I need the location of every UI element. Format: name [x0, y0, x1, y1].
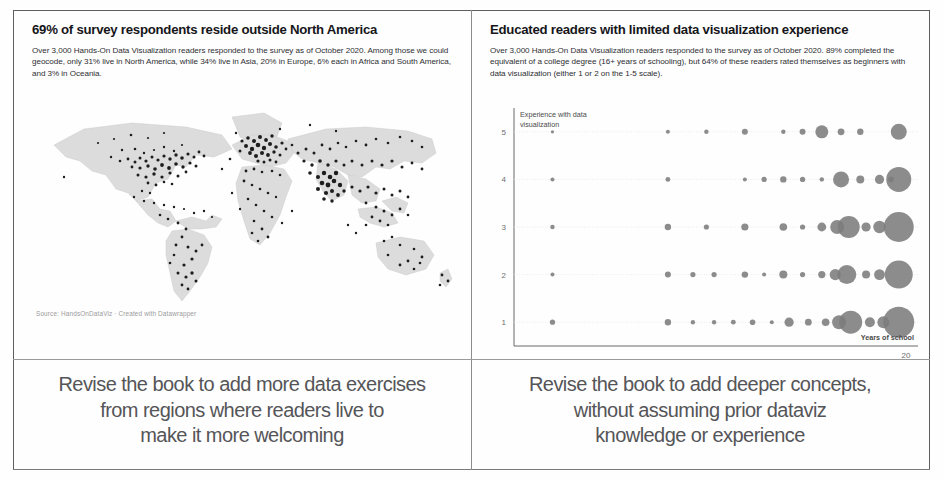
bubble-point [781, 130, 785, 134]
bubble-point [856, 175, 864, 183]
y-tick-label-4: 4 [502, 175, 507, 184]
bubble-point [741, 223, 748, 230]
bubble-point [838, 128, 845, 135]
bubble-point [805, 319, 812, 326]
bubble-point [815, 125, 828, 138]
bubble-point [550, 273, 554, 277]
bubble-point [750, 319, 756, 325]
y-axis-title-line1: Experience with data [520, 110, 587, 119]
bubble-point [779, 271, 787, 279]
left-chart-subtitle: Over 3,000 Hands-On Data Visualization r… [32, 45, 453, 79]
bubble-point [875, 175, 884, 184]
bubble-point [865, 317, 875, 327]
slide-root: 69% of survey respondents reside outside… [0, 0, 943, 480]
bubble-point [884, 212, 914, 242]
bubble-chart-svg: 12345 Experience with data visualization… [486, 102, 926, 359]
bubble-point [665, 319, 671, 325]
bubble-chart: 12345 Experience with data visualization… [486, 102, 926, 359]
bubble-point [704, 130, 708, 134]
bubble-point [817, 223, 826, 232]
right-caption-line-3: knowledge or experience [474, 423, 926, 449]
right-caption-line-1: Revise the book to add deeper concepts, [474, 372, 926, 398]
panel-divider-horizontal [13, 359, 930, 360]
y-tick-label-1: 1 [502, 318, 507, 327]
right-chart-subtitle: Over 3,000 Hands-On Data Visualization r… [490, 45, 911, 79]
bubble-point [862, 271, 870, 279]
left-chart-title: 69% of survey respondents reside outside… [32, 22, 453, 38]
right-chart-title: Educated readers with limited data visua… [490, 22, 911, 38]
left-panel: 69% of survey respondents reside outside… [14, 10, 471, 359]
bubble-point [833, 171, 849, 187]
bubble-point [551, 130, 554, 133]
bubble-point [770, 320, 774, 324]
left-caption-line-1: Revise the book to add more data exercis… [16, 372, 468, 398]
left-caption-line-2: from regions where readers live to [16, 398, 468, 424]
bubble-point [874, 269, 885, 280]
y-tick-label-3: 3 [502, 223, 507, 232]
bubble-point [837, 265, 856, 284]
bubble-point [691, 320, 695, 324]
bubble-point [690, 272, 695, 277]
bubble-point [785, 318, 794, 327]
bubble-point [857, 129, 863, 135]
x-axis-title: Years of school [861, 333, 914, 342]
bubble-point [742, 129, 748, 135]
bubble-point [666, 177, 671, 182]
bubble-point [820, 177, 824, 181]
bubble-point [822, 318, 830, 326]
bubble-point [886, 167, 911, 192]
bubble-point [800, 177, 805, 182]
world-symbol-map [36, 105, 456, 305]
bubble-point [762, 177, 767, 182]
frame-border-right [929, 10, 930, 470]
bubble-point [818, 271, 825, 278]
bubble-point [712, 320, 716, 324]
bubble-point [800, 224, 805, 229]
bubble-point [731, 320, 736, 325]
left-caption-line-3: make it more welcoming [16, 423, 468, 449]
y-tick-label-5: 5 [502, 128, 507, 137]
bubble-point [742, 271, 748, 277]
map-source-credit: Source: HandsOnDataViz · Created with Da… [36, 310, 196, 317]
bubble-point [665, 224, 671, 230]
y-tick-labels: 12345 [502, 128, 507, 327]
right-caption-line-2: without assuming prior dataviz [474, 398, 926, 424]
bubble-point [891, 124, 907, 140]
bubble-point [743, 177, 747, 181]
bubble-point [704, 224, 709, 229]
bubble-point [861, 222, 870, 231]
bubble-point [550, 320, 555, 325]
y-axis-title-line2: visualization [520, 120, 559, 129]
bubble-point [762, 273, 766, 277]
bubble-point [838, 216, 860, 238]
left-caption: Revise the book to add more data exercis… [16, 372, 468, 449]
bubble-point [665, 272, 671, 278]
x-tick-label-20: 20 [902, 351, 911, 359]
bubble-point [800, 272, 805, 277]
bubble-point [800, 129, 806, 135]
right-panel: Educated readers with limited data visua… [472, 10, 929, 359]
bubble-point [780, 223, 788, 231]
bubble-series [550, 124, 914, 338]
right-panel-header: Educated readers with limited data visua… [472, 10, 929, 79]
left-panel-header: 69% of survey respondents reside outside… [14, 10, 471, 79]
bubble-point [550, 177, 554, 181]
world-map-svg [36, 105, 456, 305]
bubble-point [711, 272, 716, 277]
y-tick-label-2: 2 [502, 271, 507, 280]
bubble-point [839, 311, 862, 334]
bubble-point [780, 176, 786, 182]
right-caption: Revise the book to add deeper concepts, … [474, 372, 926, 449]
bubble-point [550, 225, 554, 229]
bubble-point [885, 261, 913, 289]
bubble-point [666, 130, 670, 134]
